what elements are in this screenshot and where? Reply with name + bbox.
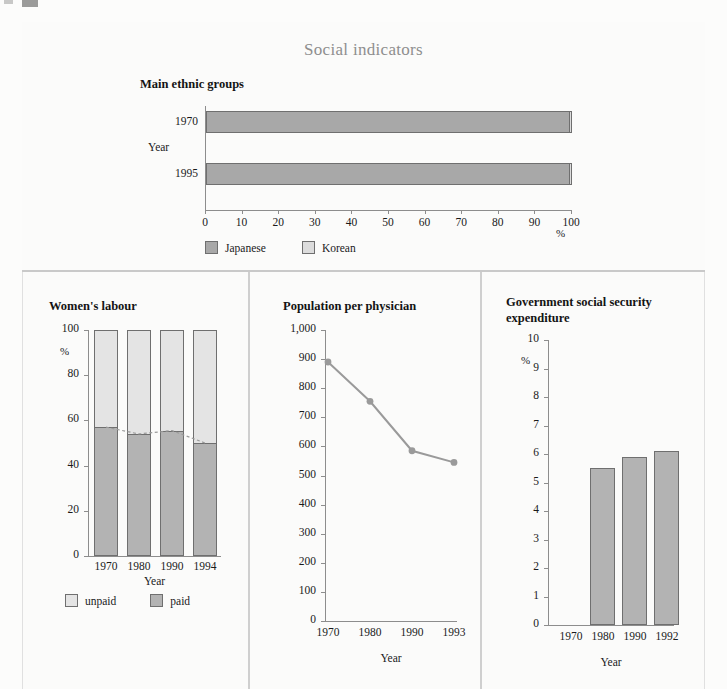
expenditure-x-axis bbox=[548, 625, 674, 626]
expenditure-ytick-mark bbox=[544, 454, 548, 455]
ethnic-ylabel-1995: 1995 bbox=[142, 167, 198, 179]
physician-data-point bbox=[367, 398, 374, 405]
ethnic-unit-percent: % bbox=[556, 227, 565, 239]
physician-plot: 01002003004005006007008009001,000 197019… bbox=[250, 272, 480, 689]
ethnic-xtick-mark bbox=[388, 210, 389, 214]
expenditure-ytick-mark bbox=[544, 511, 548, 512]
expenditure-ytick-label: 10 bbox=[506, 332, 539, 344]
womens-legend-swatch-unpaid bbox=[65, 594, 78, 607]
ethnic-bar-1970-japanese bbox=[207, 112, 569, 132]
womens-trend-line bbox=[23, 272, 248, 572]
ethnic-legend-label-japanese: Japanese bbox=[225, 242, 266, 254]
scan-artifact-icon bbox=[22, 0, 38, 7]
ethnic-xtick-label: 70 bbox=[446, 216, 476, 228]
expenditure-ytick-mark bbox=[544, 483, 548, 484]
physician-data-point bbox=[409, 447, 416, 454]
expenditure-ytick-mark bbox=[544, 597, 548, 598]
ethnic-xtick-label: 0 bbox=[190, 216, 220, 228]
ethnic-bar-1995-korean bbox=[569, 164, 571, 184]
ethnic-xtick-label: 10 bbox=[227, 216, 257, 228]
expenditure-ytick-mark bbox=[544, 426, 548, 427]
ethnic-xtick-mark bbox=[425, 210, 426, 214]
expenditure-bar-1992 bbox=[654, 451, 679, 625]
ethnic-xtick-mark bbox=[534, 210, 535, 214]
panel-divider-right-edge bbox=[704, 272, 705, 689]
expenditure-plot: 012345678910 % 1970198019901992 Year bbox=[482, 272, 704, 689]
social-security-panel: Government social security expenditure 0… bbox=[482, 272, 704, 689]
physician-data-point bbox=[325, 359, 332, 366]
page-canvas: Social indicators Main ethnic groups 197… bbox=[0, 0, 727, 689]
ethnic-xtick-mark bbox=[498, 210, 499, 214]
ethnic-xtick-label: 20 bbox=[263, 216, 293, 228]
expenditure-ytick-label: 6 bbox=[506, 446, 539, 458]
ethnic-chart-plot: 1970 Year 1995 0102030405060708090100 % … bbox=[22, 22, 705, 270]
expenditure-ytick-label: 4 bbox=[506, 503, 539, 515]
ethnic-bar-1970 bbox=[206, 111, 572, 133]
physician-xtick-label: 1990 bbox=[393, 626, 431, 638]
ethnic-xtick-mark bbox=[242, 210, 243, 214]
ethnic-xtick-label: 40 bbox=[336, 216, 366, 228]
ethnic-xtick-label: 80 bbox=[483, 216, 513, 228]
ethnic-xtick-mark bbox=[461, 210, 462, 214]
expenditure-ytick-mark bbox=[544, 540, 548, 541]
expenditure-ytick-mark bbox=[544, 625, 548, 626]
womens-axis-name-year: Year bbox=[88, 575, 221, 587]
physician-axis-name-year: Year bbox=[325, 652, 457, 664]
ethnic-xtick-mark bbox=[315, 210, 316, 214]
expenditure-ytick-label: 0 bbox=[506, 617, 539, 629]
expenditure-ytick-mark bbox=[544, 340, 548, 341]
ethnic-xtick-label: 30 bbox=[300, 216, 330, 228]
ethnic-xtick-mark bbox=[571, 210, 572, 214]
womens-xtick-label: 1994 bbox=[186, 560, 224, 572]
ethnic-axis-name-year: Year bbox=[142, 141, 198, 153]
expenditure-bar-1990 bbox=[622, 457, 647, 625]
expenditure-ytick-mark bbox=[544, 568, 548, 569]
physician-line-series bbox=[250, 272, 480, 652]
ethnic-xtick-label: 50 bbox=[373, 216, 403, 228]
womens-legend-swatch-paid bbox=[150, 594, 163, 607]
ethnic-xtick-mark bbox=[351, 210, 352, 214]
physician-data-point bbox=[451, 459, 458, 466]
ethnic-bar-1995 bbox=[206, 163, 572, 185]
expenditure-axis-name-year: Year bbox=[548, 656, 674, 668]
womens-legend-label-paid: paid bbox=[170, 595, 190, 607]
ethnic-legend-swatch-japanese bbox=[205, 241, 218, 254]
physician-xtick-label: 1993 bbox=[435, 626, 473, 638]
ethnic-ylabel-1970: 1970 bbox=[142, 115, 198, 127]
expenditure-unit-percent: % bbox=[521, 354, 530, 366]
expenditure-y-axis bbox=[548, 340, 549, 625]
expenditure-ytick-label: 2 bbox=[506, 560, 539, 572]
expenditure-ytick-label: 1 bbox=[506, 589, 539, 601]
ethnic-xtick-label: 90 bbox=[519, 216, 549, 228]
expenditure-ytick-label: 5 bbox=[506, 475, 539, 487]
physician-xtick-label: 1980 bbox=[351, 626, 389, 638]
womens-labour-panel: Women's labour 020406080100 % bbox=[23, 272, 248, 689]
ethnic-xtick-mark bbox=[205, 210, 206, 214]
ethnic-xtick-label: 60 bbox=[410, 216, 440, 228]
expenditure-xtick-label: 1992 bbox=[648, 630, 686, 642]
expenditure-ytick-mark bbox=[544, 397, 548, 398]
ethnic-legend-label-korean: Korean bbox=[322, 242, 356, 254]
expenditure-bar-1980 bbox=[590, 468, 615, 625]
ethnic-groups-panel: Social indicators Main ethnic groups 197… bbox=[22, 22, 705, 270]
scan-artifact-secondary-icon bbox=[4, 0, 13, 4]
population-per-physician-panel: Population per physician 010020030040050… bbox=[250, 272, 480, 689]
womens-legend: unpaid paid bbox=[65, 594, 190, 607]
ethnic-bar-1995-japanese bbox=[207, 164, 569, 184]
ethnic-legend-swatch-korean bbox=[302, 241, 315, 254]
expenditure-ytick-label: 7 bbox=[506, 418, 539, 430]
ethnic-bar-1970-korean bbox=[569, 112, 571, 132]
physician-xtick-label: 1970 bbox=[309, 626, 347, 638]
expenditure-ytick-label: 8 bbox=[506, 389, 539, 401]
expenditure-ytick-label: 3 bbox=[506, 532, 539, 544]
expenditure-ytick-mark bbox=[544, 369, 548, 370]
ethnic-xtick-mark bbox=[278, 210, 279, 214]
womens-legend-label-unpaid: unpaid bbox=[85, 595, 116, 607]
womens-labour-plot: 020406080100 % 19701 bbox=[23, 272, 248, 689]
ethnic-legend: Japanese Korean bbox=[205, 241, 356, 254]
